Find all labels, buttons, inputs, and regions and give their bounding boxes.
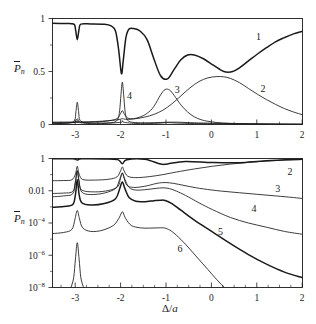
curve-label-6: 6: [178, 243, 183, 254]
bottom-ytick-1e-4: 10−4: [28, 216, 45, 228]
top-xtick--3: -3: [71, 130, 79, 140]
top-ytick-1: 1: [40, 14, 45, 24]
bottom-panel-xlabel: Δ/a: [162, 302, 178, 314]
top-xtick-1: 1: [254, 130, 259, 140]
curve-6: [53, 210, 233, 295]
top-ytick-0: 0: [40, 120, 45, 130]
curve-label-2: 2: [287, 166, 292, 177]
top-panel-svg: 0 0.5 1 -3 -2 -1 0 1 2 1234: [0, 0, 316, 150]
bottom-xtick-1: 1: [254, 293, 259, 303]
curve-1: [53, 159, 303, 165]
top-xtick--2: -2: [117, 130, 125, 140]
top-ytick-05: 0.5: [33, 67, 45, 77]
top-xtick--1: -1: [162, 130, 170, 140]
curve-label-1: 1: [256, 31, 261, 42]
top-xtick-0: 0: [209, 130, 214, 140]
bottom-ytick-1e-6: 10−6: [28, 249, 45, 261]
top-xtick-2: 2: [300, 130, 305, 140]
curve-7: [71, 243, 84, 288]
curve-label-3: 3: [275, 183, 280, 194]
bottom-ytick-1e-8: 10−8: [28, 281, 45, 293]
bottom-xtick--3: -3: [71, 293, 79, 303]
top-ylabel-base: P: [14, 62, 21, 74]
bottom-xtick-2: 2: [300, 293, 305, 303]
bottom-panel-svg: 1 0.01 10−4 10−6 10−8 -3 -2 -1 0 1 2 234…: [0, 150, 316, 324]
bottom-panel-curves: [53, 159, 303, 296]
bottom-ytick-1: 1: [40, 154, 45, 164]
top-panel-frame: [53, 19, 303, 125]
curve-label-4: 4: [127, 90, 132, 101]
curve-label-3: 3: [175, 84, 180, 95]
bottom-xtick--2: -2: [117, 293, 125, 303]
bottom-panel-xticks: [61, 283, 302, 288]
bottom-panel-frame: [53, 159, 303, 288]
xlabel-a: a: [172, 302, 178, 314]
bottom-panel: Pn: [0, 150, 316, 324]
top-panel-yticks: [49, 19, 53, 125]
top-panel: Pn: [0, 0, 316, 150]
curve-label-2: 2: [260, 83, 265, 94]
bottom-panel-annotations: 23456: [178, 166, 293, 254]
bottom-ytick-001: 0.01: [28, 186, 45, 196]
top-panel-ylabel: Pn: [14, 62, 25, 76]
top-panel-curves: [53, 23, 303, 124]
figure-container: Pn: [0, 0, 316, 324]
bottom-ylabel-base: P: [14, 212, 21, 224]
curve-1: [53, 23, 303, 79]
curve-label-4: 4: [251, 203, 256, 214]
xlabel-delta: Δ/: [162, 302, 172, 314]
curve-4: [53, 171, 303, 234]
bottom-xtick-0: 0: [209, 293, 214, 303]
bottom-ylabel-sub: n: [21, 217, 25, 226]
bottom-panel-yticks: [49, 159, 53, 288]
curve-label-5: 5: [218, 226, 223, 237]
top-ylabel-sub: n: [21, 67, 25, 76]
bottom-panel-ylabel: Pn: [14, 212, 25, 226]
